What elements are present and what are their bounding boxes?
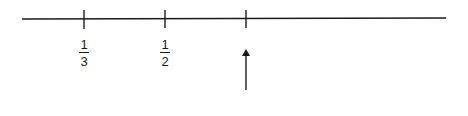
number-line (22, 18, 446, 19)
number-line-diagram (0, 0, 468, 116)
denominator: 3 (80, 55, 87, 68)
arrow-up-icon (242, 49, 250, 90)
fraction-bar (79, 52, 89, 53)
numerator: 1 (161, 38, 168, 51)
label-one-half: 1 2 (157, 38, 173, 68)
denominator: 2 (161, 55, 168, 68)
fraction-bar (160, 52, 170, 53)
numerator: 1 (80, 38, 87, 51)
label-one-third: 1 3 (76, 38, 92, 68)
